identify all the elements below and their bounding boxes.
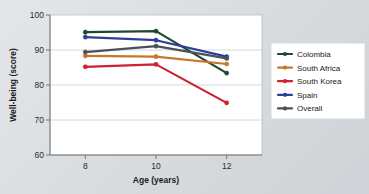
legend-marker-spain — [283, 93, 287, 97]
data-point-south-korea — [83, 65, 87, 69]
line-chart: 6070809010081012Age (years)Well-being (s… — [0, 0, 369, 194]
y-tick-label: 90 — [35, 45, 45, 55]
legend-label-south-korea: South Korea — [297, 77, 342, 86]
data-point-colombia — [83, 30, 87, 34]
data-point-colombia — [154, 29, 158, 33]
legend-label-colombia: Colombia — [297, 50, 331, 59]
legend-marker-overall — [283, 106, 287, 110]
y-tick-label: 60 — [35, 150, 45, 160]
chart-figure: 6070809010081012Age (years)Well-being (s… — [0, 0, 369, 194]
legend-label-south-africa: South Africa — [297, 64, 341, 73]
data-point-south-korea — [225, 101, 229, 105]
data-point-spain — [154, 38, 158, 42]
y-tick-label: 70 — [35, 115, 45, 125]
data-point-overall — [225, 56, 229, 60]
legend-marker-south-africa — [283, 66, 287, 70]
y-tick-label: 80 — [35, 80, 45, 90]
x-axis-title: Age (years) — [133, 175, 179, 185]
data-point-colombia — [225, 71, 229, 75]
legend-marker-colombia — [283, 52, 287, 56]
data-point-overall — [154, 44, 158, 48]
data-point-overall — [83, 50, 87, 54]
legend-label-spain: Spain — [297, 91, 317, 100]
x-tick-label: 10 — [151, 161, 161, 171]
x-tick-label: 12 — [222, 161, 232, 171]
data-point-south-africa — [225, 62, 229, 66]
data-point-spain — [83, 35, 87, 39]
x-tick-label: 8 — [83, 161, 88, 171]
legend-marker-south-korea — [283, 79, 287, 83]
y-tick-label: 100 — [30, 10, 44, 20]
data-point-south-korea — [154, 62, 158, 66]
data-point-south-africa — [154, 55, 158, 59]
legend-label-overall: Overall — [297, 104, 323, 113]
y-axis-title: Well-being (score) — [8, 48, 18, 122]
